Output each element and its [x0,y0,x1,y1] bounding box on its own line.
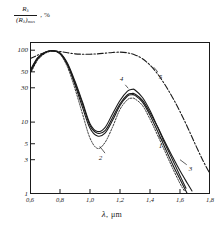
y-axis-denominator: (Rλ)max [14,16,37,25]
y-tick-label: 100 [18,46,29,54]
curve-4 [30,50,186,188]
y-tick-label: 5 [25,140,29,148]
y-tick-label: 10 [21,118,28,126]
x-tick-label: 0,6 [26,196,34,203]
x-axis-ticks: 0,60,81,01,21,41,61,8 [30,196,210,208]
y-axis-units: , % [40,11,50,19]
x-tick-label: 1,6 [176,196,184,203]
y-axis-ticks: 135103050100 [4,42,28,194]
x-tick-label: 1,0 [86,196,94,203]
y-axis-numerator: Rλ [20,6,31,15]
curve-3 [30,51,192,191]
x-tick-label: 0,8 [56,196,64,203]
chart-figure: Rλ (Rλ)max , % 135103050100 0,60,81,01,2… [0,0,224,229]
y-axis-label: Rλ (Rλ)max , % [14,6,50,24]
x-tick-label: 1,8 [206,196,214,203]
y-axis-fraction: Rλ (Rλ)max [14,6,37,24]
curve-label-5: 5 [159,73,163,81]
curve-label-1: 1 [159,142,163,150]
curve-label-4: 4 [120,75,124,83]
y-tick-label: 3 [25,156,29,164]
curve-5 [30,51,210,174]
y-tick-label: 50 [21,68,28,76]
x-tick-label: 1,4 [146,196,154,203]
x-tick-label: 1,2 [116,196,124,203]
curve-label-3: 3 [189,165,193,173]
curve-label-2: 2 [99,154,103,162]
plot-area [30,42,210,194]
x-axis-label: λ, μm [0,209,224,219]
y-tick-label: 30 [21,84,28,92]
